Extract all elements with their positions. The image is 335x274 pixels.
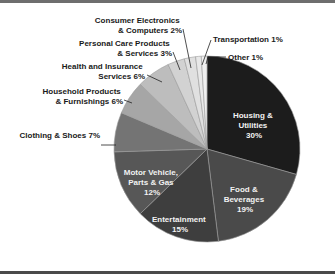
- label-household: Household Products & Furnishings 6%: [43, 87, 123, 106]
- label-clothing: Clothing & Shoes 7%: [20, 131, 100, 140]
- label-electronics: Consumer Electronics & Computers 2%: [95, 16, 182, 35]
- pie-chart: Consumer Electronics & Computers 2% Pers…: [0, 0, 335, 274]
- label-health: Health and Insurance Services 6%: [62, 62, 145, 81]
- label-transportation: Transportation 1%: [213, 35, 283, 44]
- label-other: Other 1%: [228, 53, 263, 62]
- label-personal: Personal Care Products & Services 3%: [79, 39, 172, 58]
